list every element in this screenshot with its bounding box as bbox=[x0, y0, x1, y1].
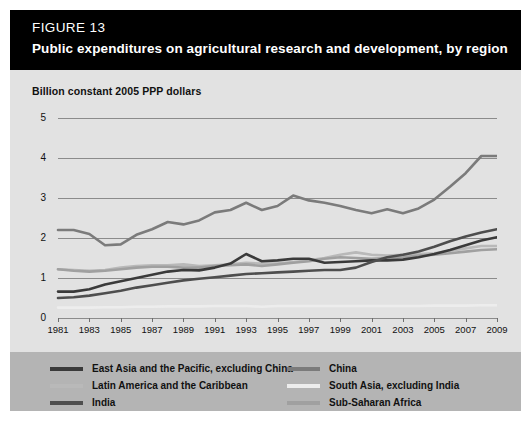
x-tick-label: 1993 bbox=[236, 324, 257, 335]
legend-label: China bbox=[329, 363, 357, 374]
x-tick-label: 1983 bbox=[79, 324, 100, 335]
x-tick-label: 2001 bbox=[361, 324, 382, 335]
x-tick-label: 1991 bbox=[204, 324, 225, 335]
x-tick-label: 2009 bbox=[486, 324, 507, 335]
legend-swatch bbox=[50, 401, 83, 405]
x-tick bbox=[372, 318, 373, 322]
x-tick bbox=[497, 318, 498, 322]
data-lines bbox=[48, 118, 497, 318]
legend-label: East Asia and the Pacific, excluding Chi… bbox=[92, 363, 293, 374]
series-line bbox=[58, 305, 497, 307]
legend-swatch bbox=[50, 384, 83, 388]
y-tick-label: 5 bbox=[32, 113, 46, 123]
legend-column-right: ChinaSouth Asia, excluding IndiaSub-Saha… bbox=[287, 362, 459, 413]
y-axis-title: Billion constant 2005 PPP dollars bbox=[32, 85, 201, 97]
y-tick-label: 1 bbox=[32, 273, 46, 283]
x-tick bbox=[183, 318, 184, 322]
legend-item[interactable]: China bbox=[287, 362, 459, 375]
x-tick-label: 1999 bbox=[330, 324, 351, 335]
legend-label: Sub-Saharan Africa bbox=[329, 397, 421, 408]
y-tick-label: 0 bbox=[32, 313, 46, 323]
x-tick bbox=[58, 318, 59, 322]
legend-item[interactable]: Latin America and the Caribbean bbox=[50, 379, 293, 392]
x-tick-label: 2005 bbox=[424, 324, 445, 335]
legend-item[interactable]: East Asia and the Pacific, excluding Chi… bbox=[50, 362, 293, 375]
x-tick bbox=[340, 318, 341, 322]
x-tick-label: 1997 bbox=[298, 324, 319, 335]
x-tick-label: 1987 bbox=[141, 324, 162, 335]
x-tick bbox=[434, 318, 435, 322]
x-tick bbox=[466, 318, 467, 322]
legend-swatch bbox=[287, 401, 320, 405]
x-tick-label: 1981 bbox=[47, 324, 68, 335]
legend-swatch bbox=[50, 367, 83, 371]
x-tick-label: 1985 bbox=[110, 324, 131, 335]
x-tick-label: 1989 bbox=[173, 324, 194, 335]
legend-item[interactable]: Sub-Saharan Africa bbox=[287, 396, 459, 409]
x-tick-label: 2003 bbox=[392, 324, 413, 335]
x-tick bbox=[152, 318, 153, 322]
x-tick bbox=[121, 318, 122, 322]
x-tick-label: 2007 bbox=[455, 324, 476, 335]
x-tick bbox=[246, 318, 247, 322]
y-tick-label: 3 bbox=[32, 193, 46, 203]
legend-swatch bbox=[287, 367, 320, 371]
legend-label: South Asia, excluding India bbox=[329, 380, 459, 391]
figure-number: FIGURE 13 bbox=[32, 19, 521, 36]
chart-panel: Billion constant 2005 PPP dollars 012345… bbox=[10, 70, 521, 352]
plot-area: 012345 198119831985198719891991199319951… bbox=[48, 118, 497, 318]
chart-legend: East Asia and the Pacific, excluding Chi… bbox=[10, 352, 521, 411]
legend-column-left: East Asia and the Pacific, excluding Chi… bbox=[50, 362, 293, 413]
x-tick bbox=[215, 318, 216, 322]
legend-label: India bbox=[92, 397, 115, 408]
legend-item[interactable]: India bbox=[50, 396, 293, 409]
x-tick-label: 1995 bbox=[267, 324, 288, 335]
figure-title: Public expenditures on agricultural rese… bbox=[32, 39, 521, 58]
legend-label: Latin America and the Caribbean bbox=[92, 380, 248, 391]
x-tick bbox=[403, 318, 404, 322]
x-tick bbox=[309, 318, 310, 322]
legend-swatch bbox=[287, 384, 320, 388]
legend-item[interactable]: South Asia, excluding India bbox=[287, 379, 459, 392]
y-tick-label: 2 bbox=[32, 233, 46, 243]
x-tick bbox=[89, 318, 90, 322]
series-line bbox=[58, 156, 497, 245]
series-line bbox=[58, 246, 497, 271]
figure-header: FIGURE 13 Public expenditures on agricul… bbox=[10, 10, 521, 70]
x-tick bbox=[278, 318, 279, 322]
figure-container: FIGURE 13 Public expenditures on agricul… bbox=[0, 0, 531, 421]
y-tick-label: 4 bbox=[32, 153, 46, 163]
